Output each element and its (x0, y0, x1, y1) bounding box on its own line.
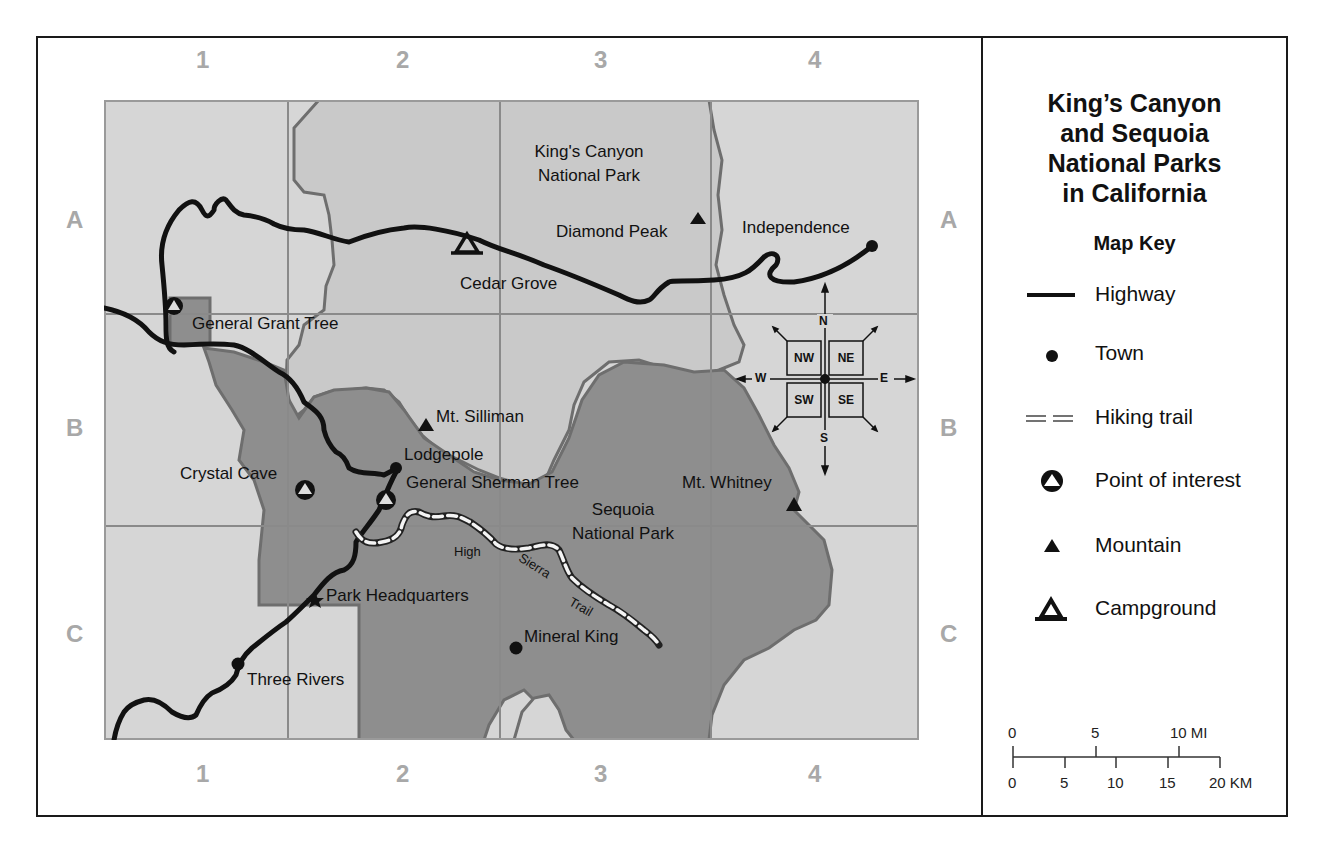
highway-line-icon (1023, 280, 1083, 310)
grid-row-label-right-a: A (940, 206, 957, 234)
key-item-mountain: Mountain (1023, 531, 1283, 561)
grid-col-label-top-4: 4 (808, 46, 821, 74)
scale-km-10: 10 (1107, 774, 1124, 791)
grid-col-label-bottom-3: 3 (594, 760, 607, 788)
key-item-hiking-trail: Hiking trail (1023, 403, 1283, 433)
compass-e-label: E (880, 371, 888, 385)
key-label-town: Town (1095, 341, 1144, 365)
grid-col-label-top-3: 3 (594, 46, 607, 74)
campground-icon (1023, 594, 1083, 624)
grid-col-label-top-2: 2 (396, 46, 409, 74)
map-title-line-4: in California (983, 178, 1286, 208)
grid-row-label-left-a: A (66, 206, 83, 234)
key-label-hiking-trail: Hiking trail (1095, 405, 1193, 429)
scale-km-15: 15 (1159, 774, 1176, 791)
map-title-line-1: King’s Canyon (983, 88, 1286, 118)
mineral-king-label: Mineral King (524, 627, 619, 647)
scale-mi-10: 10 MI (1170, 724, 1208, 741)
sequoia-label-line-1: Sequoia (572, 498, 674, 522)
poi-crystal-cave-icon (295, 480, 315, 500)
point-of-interest-icon (1023, 466, 1083, 496)
grid-col-label-bottom-1: 1 (196, 760, 209, 788)
grid-col-label-top-1: 1 (196, 46, 209, 74)
compass-w-label: W (755, 371, 766, 385)
cedar-grove-label: Cedar Grove (460, 274, 557, 294)
trail-label-high: High (454, 544, 481, 559)
town-independence-icon (866, 240, 878, 252)
key-label-campground: Campground (1095, 596, 1216, 620)
map-key-heading: Map Key (983, 232, 1286, 255)
poi-general-grant-tree-icon (165, 297, 183, 315)
compass-nw-label: NW (787, 351, 821, 365)
legend-panel: King’s Canyon and Sequoia National Parks… (983, 38, 1286, 815)
compass-ne-label: NE (829, 351, 863, 365)
diamond-peak-label: Diamond Peak (556, 222, 668, 242)
mt-silliman-label: Mt. Silliman (436, 407, 524, 427)
map-title: King’s Canyon and Sequoia National Parks… (983, 88, 1286, 208)
scale-mi-0: 0 (1008, 724, 1016, 741)
key-item-town: Town (1023, 339, 1283, 369)
lodgepole-label: Lodgepole (404, 445, 483, 465)
key-item-point-of-interest: Point of interest (1023, 466, 1283, 496)
independence-label: Independence (742, 218, 850, 238)
scale-km-0: 0 (1008, 774, 1016, 791)
kings-canyon-park-label: King's Canyon National Park (524, 140, 654, 188)
grid-col-label-bottom-4: 4 (808, 760, 821, 788)
key-item-campground: Campground (1023, 594, 1283, 624)
grid-row-label-left-c: C (66, 620, 83, 648)
town-dot-icon (1023, 339, 1083, 369)
town-mineral-king-icon (510, 642, 523, 655)
hiking-trail-icon (1023, 403, 1083, 433)
compass-se-label: SE (829, 393, 863, 407)
compass-sw-label: SW (787, 393, 821, 407)
map-title-line-2: and Sequoia (983, 118, 1286, 148)
crystal-cave-label: Crystal Cave (180, 464, 277, 484)
scale-km-20: 20 KM (1209, 774, 1252, 791)
general-grant-tree-label: General Grant Tree (192, 314, 338, 334)
grid-row-label-left-b: B (66, 414, 83, 442)
map-title-line-3: National Parks (983, 148, 1286, 178)
scale-bar: 0 5 10 MI 0 5 10 15 20 KM (1003, 714, 1263, 804)
sequoia-label-line-2: National Park (572, 522, 674, 546)
three-rivers-label: Three Rivers (247, 670, 344, 690)
key-label-mountain: Mountain (1095, 533, 1181, 557)
mountain-icon (1023, 531, 1083, 561)
park-headquarters-label: Park Headquarters (326, 586, 469, 606)
park-map: King's Canyon National Park Diamond Peak… (104, 100, 919, 740)
compass-s-label: S (820, 431, 828, 445)
town-lodgepole-icon (390, 462, 402, 474)
scale-km-5: 5 (1060, 774, 1068, 791)
compass-n-label: N (819, 314, 828, 328)
grid-row-label-right-c: C (940, 620, 957, 648)
grid-row-label-right-b: B (940, 414, 957, 442)
scale-mi-5: 5 (1091, 724, 1099, 741)
key-label-point-of-interest: Point of interest (1095, 468, 1241, 492)
kings-canyon-label-line-2: National Park (524, 164, 654, 188)
key-label-highway: Highway (1095, 282, 1176, 306)
key-item-highway: Highway (1023, 280, 1283, 310)
grid-col-label-bottom-2: 2 (396, 760, 409, 788)
mt-whitney-label: Mt. Whitney (682, 473, 772, 493)
town-three-rivers-icon (232, 658, 245, 671)
general-sherman-tree-label: General Sherman Tree (406, 473, 579, 493)
poi-general-sherman-tree-icon (376, 490, 396, 510)
kings-canyon-label-line-1: King's Canyon (524, 140, 654, 164)
sequoia-park-label: Sequoia National Park (572, 498, 674, 546)
